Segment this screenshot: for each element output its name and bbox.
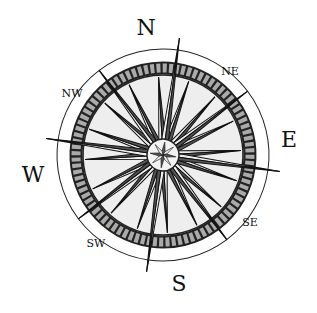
label-northwest: NW [62,88,83,99]
label-east: E [281,129,297,151]
label-northeast: NE [221,66,239,77]
label-southeast: SE [242,217,258,228]
label-north: N [136,17,155,39]
label-southwest: SW [87,238,106,249]
compass-rose-figure: N E S W NE SE SW NW [0,0,317,313]
label-west: W [22,164,45,186]
label-south: S [171,273,186,295]
compass-rose-graphic [0,0,317,313]
